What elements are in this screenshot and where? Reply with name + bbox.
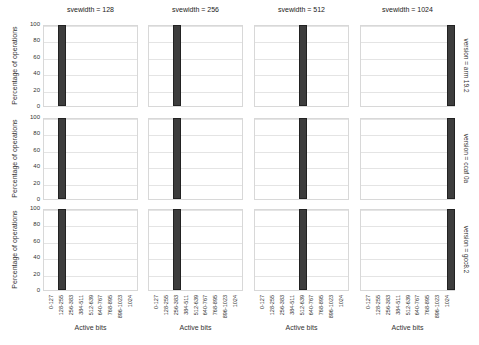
gridline — [361, 210, 454, 211]
x-tick-label: 896-1023 — [434, 295, 440, 323]
y-tick-label: 80 — [26, 130, 40, 136]
row-title: version = arm 19.2 — [463, 21, 470, 111]
bar-256-383 — [173, 209, 181, 290]
x-tick-label: 128-255 — [375, 295, 381, 323]
x-tick-label: 0-127 — [259, 295, 265, 323]
x-tick-label: 0-127 — [153, 295, 159, 323]
bar-1024 — [447, 209, 455, 290]
y-tick-label: 40 — [26, 163, 40, 169]
gridline — [361, 276, 454, 277]
y-tick-label: 20 — [26, 180, 40, 186]
y-tick-label: 0 — [26, 287, 40, 293]
row-title: version = ccaf 0a — [463, 114, 470, 204]
facet-panel-r0-c3 — [360, 25, 455, 107]
gridline — [149, 75, 242, 76]
bar-256-383 — [173, 25, 181, 106]
column-title: svewidth = 256 — [148, 6, 243, 13]
x-tick-label: 1024 — [444, 295, 450, 323]
x-tick-label: 512-639 — [299, 295, 305, 323]
y-tick-label: 40 — [26, 70, 40, 76]
gridline — [149, 135, 242, 136]
x-tick-label: 896-1023 — [117, 295, 123, 323]
row-title: version = gcc8.2 — [463, 205, 470, 295]
y-tick-label: 100 — [26, 114, 40, 120]
x-tick-label: 256-383 — [173, 295, 179, 323]
gridline — [361, 226, 454, 227]
x-axis-label: Active bits — [43, 324, 138, 331]
x-tick-label: 640-767 — [202, 295, 208, 323]
x-tick-label: 128-255 — [163, 295, 169, 323]
facet-panel-r1-c0 — [43, 118, 138, 200]
x-axis-label: Active bits — [148, 324, 243, 331]
gridline — [361, 243, 454, 244]
y-axis-label: Percentage of operations — [11, 16, 18, 116]
column-title: svewidth = 128 — [43, 6, 138, 13]
facet-panel-r1-c3 — [360, 118, 455, 200]
gridline — [149, 259, 242, 260]
x-tick-label: 896-1023 — [328, 295, 334, 323]
x-tick-label: 0-127 — [365, 295, 371, 323]
x-tick-label: 1024 — [127, 295, 133, 323]
x-tick-label: 128-255 — [58, 295, 64, 323]
gridline — [361, 152, 454, 153]
gridline — [361, 135, 454, 136]
bar-128-255 — [58, 118, 66, 199]
column-title: svewidth = 1024 — [360, 6, 455, 13]
y-tick-label: 60 — [26, 238, 40, 244]
y-axis-label: Percentage of operations — [11, 200, 18, 300]
x-tick-label: 768-895 — [318, 295, 324, 323]
y-axis-label: Percentage of operations — [11, 109, 18, 209]
gridline — [149, 185, 242, 186]
facet-panel-r1-c1 — [148, 118, 243, 200]
x-tick-label: 1024 — [338, 295, 344, 323]
y-tick-label: 80 — [26, 221, 40, 227]
x-tick-label: 256-383 — [279, 295, 285, 323]
x-axis-label: Active bits — [360, 324, 455, 331]
column-title: svewidth = 512 — [254, 6, 349, 13]
x-tick-label: 512-639 — [193, 295, 199, 323]
x-tick-label: 512-639 — [405, 295, 411, 323]
x-tick-label: 384-511 — [289, 295, 295, 323]
gridline — [361, 75, 454, 76]
bar-512-639 — [299, 118, 307, 199]
x-tick-label: 640-767 — [414, 295, 420, 323]
x-tick-label: 640-767 — [308, 295, 314, 323]
x-tick-label: 512-639 — [88, 295, 94, 323]
facet-panel-r2-c1 — [148, 209, 243, 291]
x-tick-label: 0-127 — [48, 295, 54, 323]
gridline — [361, 26, 454, 27]
facet-panel-r2-c0 — [43, 209, 138, 291]
facet-panel-r2-c2 — [254, 209, 349, 291]
gridline — [361, 59, 454, 60]
gridline — [149, 26, 242, 27]
facet-panel-r2-c3 — [360, 209, 455, 291]
x-tick-label: 384-511 — [395, 295, 401, 323]
y-tick-label: 60 — [26, 147, 40, 153]
x-tick-label: 384-511 — [183, 295, 189, 323]
x-tick-label: 896-1023 — [222, 295, 228, 323]
y-tick-label: 80 — [26, 37, 40, 43]
x-tick-label: 768-895 — [424, 295, 430, 323]
gridline — [149, 226, 242, 227]
gridline — [149, 92, 242, 93]
gridline — [361, 259, 454, 260]
y-tick-label: 0 — [26, 196, 40, 202]
x-tick-label: 1024 — [232, 295, 238, 323]
y-tick-label: 20 — [26, 271, 40, 277]
y-tick-label: 100 — [26, 205, 40, 211]
facet-panel-r0-c0 — [43, 25, 138, 107]
facet-panel-r0-c1 — [148, 25, 243, 107]
x-tick-label: 384-511 — [78, 295, 84, 323]
y-tick-label: 100 — [26, 21, 40, 27]
bar-1024 — [447, 118, 455, 199]
gridline — [361, 168, 454, 169]
x-tick-label: 256-383 — [385, 295, 391, 323]
x-tick-label: 768-895 — [212, 295, 218, 323]
bar-512-639 — [299, 209, 307, 290]
bar-128-255 — [58, 209, 66, 290]
gridline — [149, 152, 242, 153]
gridline — [361, 92, 454, 93]
facet-panel-r1-c2 — [254, 118, 349, 200]
x-tick-label: 128-255 — [269, 295, 275, 323]
bar-128-255 — [58, 25, 66, 106]
